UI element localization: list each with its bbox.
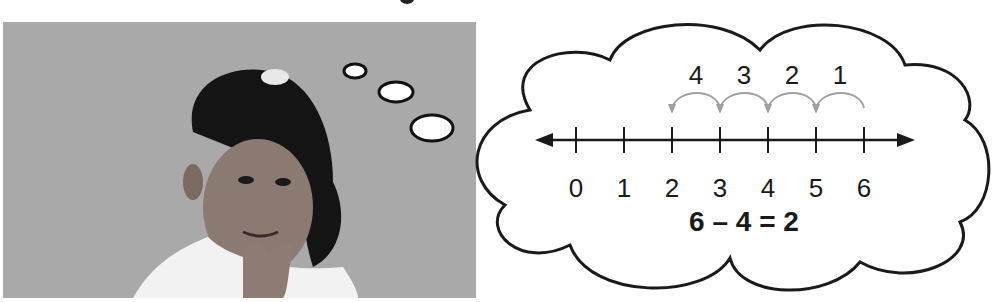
jump-label: 1 (833, 62, 847, 88)
tick-label: 6 (857, 175, 871, 201)
jump-label: 4 (689, 62, 703, 88)
photo-girl-thinking (3, 22, 476, 298)
equation: 6 – 4 = 2 (689, 208, 799, 236)
tick-label: 5 (809, 175, 823, 201)
tick-label: 0 (569, 175, 583, 201)
cloud-outline-icon (460, 0, 997, 302)
tick-label: 3 (713, 175, 727, 201)
thought-cloud: 4 3 2 1 0 1 2 3 4 5 6 6 – 4 = 2 (460, 0, 997, 302)
cropped-heading-fragment (400, 0, 414, 4)
tick-label: 2 (665, 175, 679, 201)
tick-label: 1 (617, 175, 631, 201)
jump-label: 2 (785, 62, 799, 88)
girl-silhouette-icon (3, 22, 476, 298)
tick-label: 4 (761, 175, 775, 201)
jump-label: 3 (737, 62, 751, 88)
